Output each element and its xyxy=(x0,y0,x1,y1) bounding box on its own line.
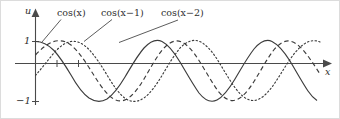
series-label-cos-x-minus-1: cos(x−1) xyxy=(101,8,144,18)
leader-line-cos-x xyxy=(42,20,61,43)
curve-cos-x-minus-1 xyxy=(36,41,321,101)
y-axis-label: u xyxy=(25,6,31,16)
x-axis-label: x xyxy=(325,67,330,77)
y-tick-label-one: 1 xyxy=(24,36,30,46)
curve-cos-x-minus-2 xyxy=(36,40,321,101)
leader-line-cos-x-minus-1 xyxy=(84,20,112,42)
series-label-cos-x-minus-2: cos(x−2) xyxy=(161,8,204,18)
y-tick-label-negative-one: −1 xyxy=(16,96,31,106)
series-label-cos-x: cos(x) xyxy=(57,8,86,18)
y-axis-arrowhead xyxy=(32,9,40,18)
plot-canvas xyxy=(1,1,340,119)
leader-line-cos-x-minus-2 xyxy=(119,20,178,43)
cosine-shift-figure: u x 1 −1 cos(x) cos(x−1) cos(x−2) xyxy=(0,0,340,119)
